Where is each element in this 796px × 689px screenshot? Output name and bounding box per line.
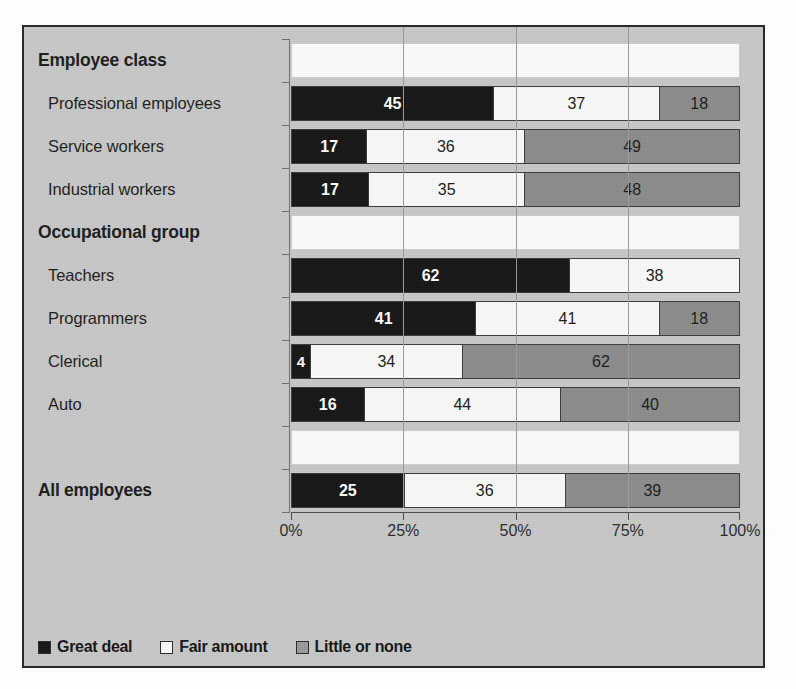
x-axis-tick-label: 100% — [720, 522, 761, 540]
chart-row: Industrial workers173548 — [24, 168, 763, 211]
row-label-blank — [24, 426, 289, 469]
bar-segment-great: 16 — [292, 388, 364, 421]
row-plot: 453718 — [291, 82, 740, 125]
row-label-auto: Auto — [24, 383, 313, 426]
row-label-service-workers: Service workers — [24, 125, 313, 168]
chart-row: Clerical43462 — [24, 340, 763, 383]
legend-label: Great deal — [57, 638, 132, 656]
stacked-bar: 453718 — [291, 86, 740, 121]
legend-label: Little or none — [315, 638, 412, 656]
stacked-bar: 253639 — [291, 473, 740, 508]
row-plot: 43462 — [291, 340, 740, 383]
row-label-occupational-group: Occupational group — [24, 211, 303, 254]
stacked-bar — [291, 430, 740, 465]
x-axis-tick-label: 75% — [612, 522, 644, 540]
x-axis-tick-label: 50% — [499, 522, 531, 540]
row-plot — [291, 211, 740, 254]
chart-row: Employee class — [24, 39, 763, 82]
bar-segment-little: 18 — [659, 87, 739, 120]
bar-segment-fair: 38 — [569, 259, 739, 292]
row-label-industrial-workers: Industrial workers — [24, 168, 313, 211]
bar-segment-great: 62 — [292, 259, 569, 292]
bar-segment-fair: 34 — [310, 345, 462, 378]
x-axis-tick-label: 0% — [279, 522, 302, 540]
row-plot: 173649 — [291, 125, 740, 168]
legend-swatch-fair-icon — [160, 641, 173, 654]
legend-swatch-great-icon — [38, 641, 51, 654]
row-label-programmers: Programmers — [24, 297, 313, 340]
row-label-teachers: Teachers — [24, 254, 313, 297]
bar-segment-great: 25 — [292, 474, 404, 507]
row-label-clerical: Clerical — [24, 340, 313, 383]
bar-segment-little: 49 — [524, 130, 739, 163]
row-plot: 414118 — [291, 297, 740, 340]
bar-segment-great: 4 — [292, 345, 310, 378]
legend-item-fair[interactable]: Fair amount — [160, 638, 267, 656]
row-label-employee-class: Employee class — [24, 39, 303, 82]
x-axis-tick — [291, 513, 292, 520]
x-axis-tick — [403, 513, 404, 520]
legend-item-great[interactable]: Great deal — [38, 638, 132, 656]
x-axis-tick — [628, 513, 629, 520]
chart-row: All employees253639 — [24, 469, 763, 512]
chart-rows: Employee classProfessional employees4537… — [24, 39, 763, 512]
row-plot: 6238 — [291, 254, 740, 297]
chart-row: Occupational group — [24, 211, 763, 254]
x-axis-tick — [739, 513, 740, 520]
legend-item-little[interactable]: Little or none — [296, 638, 412, 656]
chart-row: Service workers173649 — [24, 125, 763, 168]
row-plot: 253639 — [291, 469, 740, 512]
row-plot: 173548 — [291, 168, 740, 211]
bar-segment-fair: 35 — [368, 173, 524, 206]
stacked-bar: 43462 — [291, 344, 740, 379]
stacked-bar: 173548 — [291, 172, 740, 207]
stacked-bar: 173649 — [291, 129, 740, 164]
row-plot — [291, 426, 740, 469]
stacked-bar: 414118 — [291, 301, 740, 336]
row-label-professional-employees: Professional employees — [24, 82, 313, 125]
chart-row: Auto164440 — [24, 383, 763, 426]
bar-segment-great: 45 — [292, 87, 493, 120]
chart-row: Programmers414118 — [24, 297, 763, 340]
stacked-bar — [291, 43, 740, 78]
bar-segment-great: 17 — [292, 173, 368, 206]
bar-segment-fair: 44 — [364, 388, 561, 421]
row-label-all-employees: All employees — [24, 469, 303, 512]
stacked-bar: 6238 — [291, 258, 740, 293]
x-axis-ticks — [291, 513, 740, 520]
row-plot: 164440 — [291, 383, 740, 426]
x-axis-tick — [516, 513, 517, 520]
bar-segment-fair: 36 — [404, 474, 565, 507]
bar-segment-little: 48 — [524, 173, 739, 206]
x-axis-tick-labels: 0%25%50%75%100% — [291, 522, 740, 546]
y-axis-tick — [282, 512, 289, 513]
page-background: Employee classProfessional employees4537… — [0, 0, 796, 689]
chart-row: Teachers6238 — [24, 254, 763, 297]
stacked-bar: 164440 — [291, 387, 740, 422]
chart-frame: Employee classProfessional employees4537… — [22, 25, 765, 668]
bar-segment-fair: 41 — [475, 302, 658, 335]
bar-segment-great: 41 — [292, 302, 475, 335]
chart-legend: Great dealFair amountLittle or none — [38, 638, 412, 656]
bar-segment-little: 39 — [565, 474, 739, 507]
bar-segment-fair: 36 — [366, 130, 524, 163]
x-axis-tick-label: 25% — [387, 522, 419, 540]
bar-segment-little: 62 — [462, 345, 739, 378]
bar-segment-great: 17 — [292, 130, 366, 163]
legend-swatch-little-icon — [296, 641, 309, 654]
stacked-bar — [291, 215, 740, 250]
bar-segment-little: 40 — [560, 388, 739, 421]
legend-label: Fair amount — [179, 638, 267, 656]
chart-row: Professional employees453718 — [24, 82, 763, 125]
row-plot — [291, 39, 740, 82]
bar-segment-fair: 37 — [493, 87, 658, 120]
chart-row — [24, 426, 763, 469]
bar-segment-little: 18 — [659, 302, 739, 335]
